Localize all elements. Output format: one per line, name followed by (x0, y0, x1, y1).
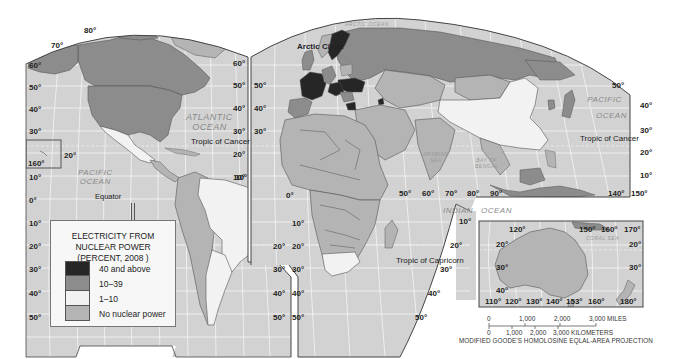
lat-label: 80° (84, 27, 96, 35)
country-south-korea (548, 100, 555, 110)
lat-label: 20° (29, 243, 41, 251)
lat-label: 40° (29, 106, 41, 114)
coral-sea-label: CORAL SEA (586, 236, 619, 242)
lat-label: 20° (640, 149, 652, 157)
legend-item-1-10: 1–10 (65, 291, 118, 306)
lon-label: 110° (485, 298, 501, 306)
lon-label: 120° (505, 298, 522, 306)
legend-label: 40 and above (99, 264, 151, 274)
lon-label: 130° (526, 298, 543, 306)
lon-label: 60° (422, 190, 434, 198)
lat-label: 30° (29, 266, 41, 274)
lat-label: 10° (29, 174, 41, 182)
lon-label: 90° (490, 190, 502, 198)
lat-label: 20° (233, 151, 245, 159)
pacific-ocean-west-label: PACIFIC OCEAN (78, 168, 112, 186)
indian-ocean-label-2: OCEAN (481, 206, 512, 215)
pacific-east-line1: PACIFIC (582, 92, 627, 108)
scale-km-1000: 1,000 (506, 329, 522, 336)
lon-label: 150° (631, 190, 648, 198)
lat-label: 30° (233, 128, 245, 136)
lat-label: 30° (254, 128, 266, 136)
lat-label: 10° (235, 174, 247, 182)
legend-title-line2: NUCLEAR POWER (51, 242, 175, 253)
bengal-line2: BENGAL (475, 164, 498, 170)
lat-label: 50° (233, 82, 245, 90)
lat-label: 40° (428, 290, 440, 298)
lon-label: 120° (509, 226, 526, 234)
tropic-of-capricorn-label: Tropic of Capricorn (396, 257, 464, 265)
lat-label: 10° (459, 218, 471, 226)
scale: 0 1,000 2,000 3,000 MILES 0 1,000 2,000 … (487, 315, 657, 339)
lon-label: 160° (601, 226, 618, 234)
pacific-west-line1: PACIFIC (78, 168, 112, 177)
lat-label: 40° (254, 105, 266, 113)
equator-label: Equator (95, 193, 121, 201)
pacific-west-line2: OCEAN (78, 177, 112, 186)
arabian-sea-label: ARABIAN SEA (423, 152, 448, 164)
arctic-ocean-label: ARCTIC OCEAN (345, 22, 389, 28)
lat-label: 50° (612, 82, 624, 90)
lat-label: 40° (233, 105, 245, 113)
legend: ELECTRICITY FROM NUCLEAR POWER (PERCENT,… (50, 220, 176, 327)
lat-label: 30° (292, 266, 304, 274)
legend-item-10-39: 10–39 (65, 276, 123, 291)
lat-label: 20° (292, 243, 304, 251)
atlantic-ocean-label: ATLANTIC OCEAN (186, 112, 233, 133)
lat-label: 20° (64, 152, 76, 160)
legend-pointer (131, 203, 135, 220)
lat-label: 50° (29, 84, 41, 92)
legend-swatch-medium (65, 276, 90, 291)
bay-of-bengal-label: BAY OF BENGAL (475, 158, 498, 170)
lat-label: 50° (292, 314, 304, 322)
legend-title-line1: ELECTRICITY FROM (51, 231, 175, 242)
projection-credit: MODIFIED GOODE'S HOMOLOSINE EQLAL-AREA P… (459, 337, 653, 344)
lat-label: 10° (640, 172, 652, 180)
lon-label: 70° (445, 190, 457, 198)
lat-label: 50° (273, 314, 285, 322)
lon-label: 150° (579, 226, 596, 234)
lat-label: 40° (292, 290, 304, 298)
lat-label: 40° (640, 102, 652, 110)
lon-label: 50° (399, 190, 411, 198)
lat-label: 10° (29, 220, 41, 228)
scale-km-2000: 2,000 (530, 329, 546, 336)
lon-label: 153° (566, 298, 583, 306)
lat-label: 20° (273, 243, 285, 251)
indian-ocean-label-1: INDIAN (443, 206, 473, 215)
lon-label: 160° (588, 298, 605, 306)
scale-miles-2000: 2,000 (554, 315, 570, 322)
lat-label: 70° (51, 42, 63, 50)
legend-item-none: No nuclear power (65, 306, 166, 321)
lon-label: 170° (624, 226, 641, 234)
lon-label: 80° (467, 190, 479, 198)
legend-swatch-dark (65, 261, 90, 276)
lat-label: 30° (440, 266, 452, 274)
atlantic-line1: ATLANTIC (186, 112, 233, 122)
legend-label: 1–10 (99, 294, 118, 304)
scale-km-0: 0 (487, 329, 491, 336)
legend-label: No nuclear power (99, 309, 166, 319)
atlantic-line2: OCEAN (186, 122, 233, 132)
scale-miles-3000: 3,000 MILES (589, 315, 627, 322)
pacific-ocean-east-label: PACIFIC OCEAN (582, 92, 627, 124)
lat-label: 10° (292, 220, 304, 228)
lat-label: 50° (254, 82, 266, 90)
legend-swatch-light (65, 291, 90, 306)
lat-label: 40° (29, 290, 41, 298)
lat-label: 20° (450, 242, 462, 250)
pacific-east-line2: OCEAN (596, 108, 627, 124)
lat-label: 30° (629, 264, 641, 272)
lat-label: 20° (496, 241, 508, 249)
legend-swatch-none (65, 306, 90, 321)
country-baltic (340, 64, 352, 76)
legend-title: ELECTRICITY FROM NUCLEAR POWER (PERCENT,… (51, 231, 175, 264)
lon-label: 160° (28, 160, 45, 168)
tropic-of-cancer-west-label: Tropic of Cancer (191, 138, 250, 146)
lat-label: 30° (29, 128, 41, 136)
lon-label: 180° (620, 298, 637, 306)
lat-label: 30° (273, 266, 285, 274)
scale-km-3000: 3,000 KILOMETERS (553, 329, 613, 336)
lat-label: 0° (29, 197, 37, 205)
lat-label: 40° (273, 290, 285, 298)
